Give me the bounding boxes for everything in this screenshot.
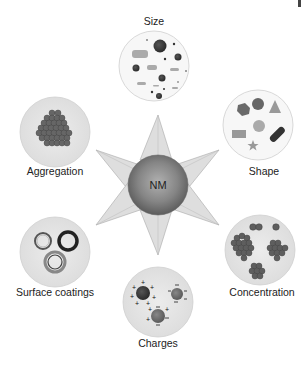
nm-properties-diagram: NM Size Aggregation: [0, 0, 305, 368]
rectangle-particle: [232, 130, 246, 138]
concentration-particle: [279, 250, 285, 256]
aggregated-particle: [64, 140, 70, 146]
svg-text:+: +: [165, 306, 169, 313]
shape-label: Shape: [249, 165, 280, 177]
property-concentration: Concentration: [225, 215, 295, 298]
concentration-particle: [256, 224, 263, 231]
positive-particle: [136, 286, 150, 300]
svg-text:+: +: [135, 300, 139, 307]
concentration-particle: [250, 224, 257, 231]
concentration-particle: [257, 273, 263, 279]
concentration-label: Concentration: [229, 286, 295, 298]
property-shape: Shape: [223, 90, 293, 177]
aggregation-label: Aggregation: [27, 165, 84, 177]
svg-text:+: +: [146, 316, 150, 323]
size-label: Size: [144, 15, 165, 27]
charges-label: Charges: [138, 337, 178, 349]
sphere-particle: [252, 98, 264, 110]
surface-coatings-label: Surface coatings: [16, 286, 94, 298]
property-charges: + + + + + + + + + +: [123, 267, 193, 349]
corner-mark: [298, 0, 301, 7]
round-particle: [253, 120, 265, 132]
svg-text:+: +: [141, 279, 145, 286]
nm-label: NM: [149, 179, 166, 191]
svg-text:+: +: [130, 293, 134, 300]
center-nanomaterial: NM: [128, 155, 188, 215]
svg-text:+: +: [150, 284, 154, 291]
negative-particle: [171, 288, 183, 300]
concentration-particle: [241, 255, 247, 261]
svg-text:+: +: [152, 294, 156, 301]
mixed-charge-particle: [151, 309, 165, 323]
property-size: Size: [119, 15, 189, 101]
property-aggregation: Aggregation: [20, 97, 90, 177]
svg-text:+: +: [132, 284, 136, 291]
concentration-particle: [274, 255, 280, 261]
charges-circle: [123, 267, 193, 337]
property-surface-coatings: Surface coatings: [16, 217, 94, 298]
concentration-particle: [246, 250, 252, 256]
concentration-particle: [273, 224, 280, 231]
svg-text:+: +: [148, 306, 152, 313]
